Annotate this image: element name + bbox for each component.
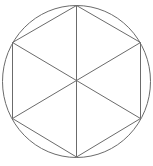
diagram-canvas [0, 0, 153, 166]
circle-hexagon-figure [0, 0, 153, 166]
